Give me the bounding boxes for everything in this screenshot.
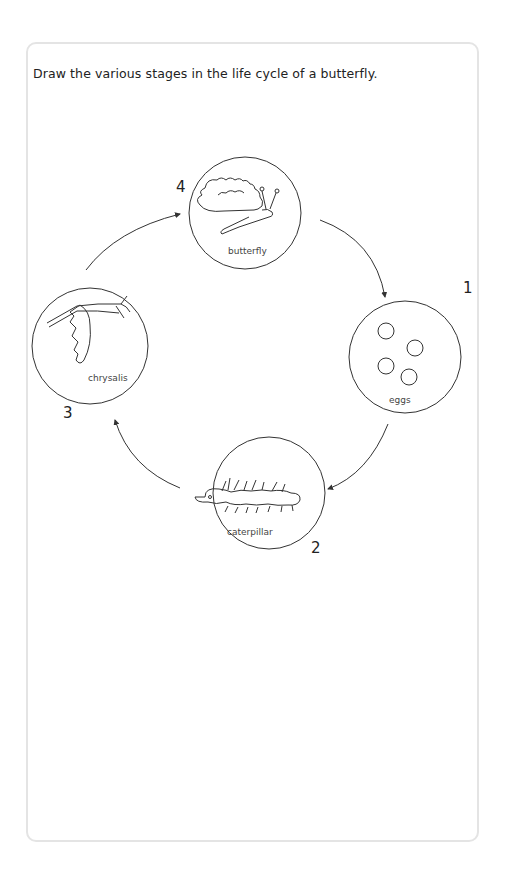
arrow-caterpillar-to-chrysalis (115, 420, 180, 488)
stage-caterpillar: caterpillar 2 (195, 437, 325, 557)
arrow-eggs-to-caterpillar (328, 424, 388, 489)
stage-eggs: eggs 1 (349, 279, 473, 413)
stage-number-1: 1 (463, 279, 473, 297)
stage-butterfly: butterfly 4 (176, 157, 301, 269)
arrow-butterfly-to-eggs (320, 220, 385, 297)
butterfly-icon (197, 178, 279, 234)
chrysalis-icon (47, 296, 130, 363)
arrow-chrysalis-to-butterfly (86, 214, 180, 270)
stage-chrysalis: chrysalis 3 (32, 288, 148, 422)
chrysalis-label: chrysalis (88, 373, 128, 383)
caterpillar-icon (195, 478, 300, 513)
stage-number-2: 2 (311, 539, 321, 557)
life-cycle-diagram: butterfly 4 eggs 1 caterpillar 2 (0, 0, 505, 875)
stage-number-3: 3 (63, 404, 73, 422)
chrysalis-circle (32, 288, 148, 404)
eggs-label: eggs (389, 395, 411, 405)
stage-number-4: 4 (176, 178, 186, 196)
caterpillar-label: caterpillar (227, 527, 273, 537)
butterfly-label: butterfly (228, 246, 267, 256)
eggs-icon (378, 323, 423, 385)
